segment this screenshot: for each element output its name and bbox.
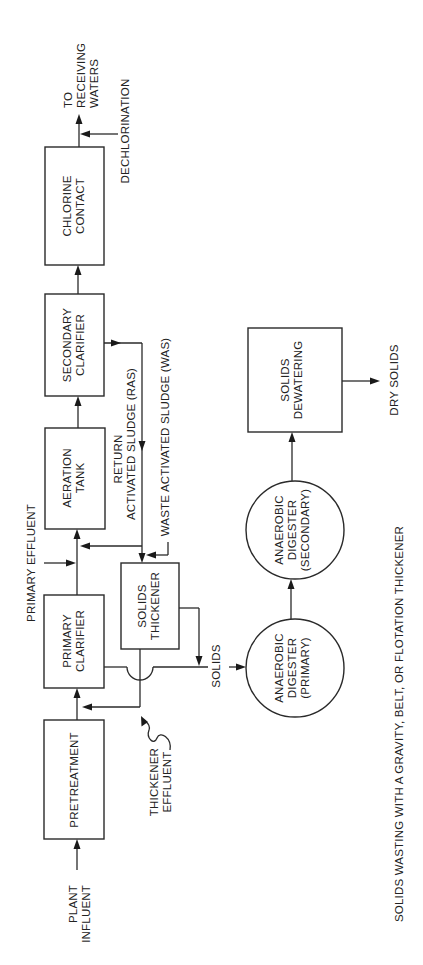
chlorine-contact-label-1: CHLORINE [61,175,73,236]
primary-sludge-line [104,667,208,680]
secondary-clarifier-label-2: CLARIFIER [74,314,86,376]
arrow-head-icon [236,664,246,671]
arrow-head-icon [146,552,156,559]
arrow-head-icon [196,656,203,666]
ras-label-2: ACTIVATED SLUDGE (RAS) [125,368,137,520]
secondary-clarifier-label-1: SECONDARY [61,308,73,383]
process-flow-diagram: PLANT INFLUENT PRETREATMENT PRIMARY CLAR… [0,0,423,965]
solids-dewatering-label-1: SOLIDS [279,358,291,402]
solids-thickener-label-1: SOLIDS [136,584,148,628]
solids-dewatering-label-2: DEWATERING [292,341,304,420]
dry-solids-label: DRY SOLIDS [388,344,400,415]
aeration-tank-label-2: TANK [74,463,86,494]
outflow-label-3: WATERS [88,59,100,108]
arrow-head-icon [370,378,380,385]
was-label: WASTE ACTIVATED SLUDGE (WAS) [159,338,171,537]
solids-thickener-label-2: THICKENER [149,572,161,640]
outflow-label-1: TO [62,92,74,108]
arrow-head-icon [80,543,90,550]
primary-clarifier-unit: PRIMARY CLARIFIER [44,595,104,688]
arrow-head-icon [74,688,81,698]
plant-influent: PLANT INFLUENT [67,839,92,943]
aeration-tank-label-1: AERATION [61,448,73,508]
arrow-head-icon [80,131,90,138]
was-stream: WASTE ACTIVATED SLUDGE (WAS) [146,338,171,559]
arrow-head-icon [76,114,83,124]
digester-secondary-label-2: DIGESTER [286,500,298,560]
solids-stream: SOLIDS [210,644,246,688]
thickener-effluent-label-1: THICKENER [148,748,160,816]
aeration-tank-unit: AERATION TANK [45,428,105,529]
arrow-head-icon [111,340,121,347]
pretreatment-unit: PRETREATMENT [44,720,104,839]
arrow-head-icon [75,265,82,275]
arrow-head-icon [75,396,82,406]
arrow-head-icon [139,553,146,563]
arrow-head-icon [288,579,295,589]
anaerobic-digester-primary-unit: ANAEROBIC DIGESTER (PRIMARY) [246,619,344,717]
primary-clarifier-label-2: CLARIFIER [74,610,86,672]
plant-influent-label-2: INFLUENT [80,885,92,943]
primary-effluent-label: PRIMARY EFFLUENT [25,504,37,622]
footnote: SOLIDS WASTING WITH A GRAVITY, BELT, OR … [393,526,405,922]
primary-clarifier-label-1: PRIMARY [61,614,73,668]
pretreatment-label: PRETREATMENT [68,732,80,827]
solids-thickener-unit: SOLIDS THICKENER [121,563,179,649]
arrow-head-icon [66,560,76,567]
digester-primary-label-3: (PRIMARY) [299,637,311,699]
dechlorination-label: DECHLORINATION [119,79,131,184]
chlorine-contact-unit: CHLORINE CONTACT [45,147,104,265]
outflow-stream: TO RECEIVING WATERS [62,43,100,147]
solids-dewatering-unit: SOLIDS DEWATERING [248,328,342,432]
anaerobic-digester-secondary-unit: ANAEROBIC DIGESTER (SECONDARY) [246,481,344,579]
digester-primary-label-2: DIGESTER [286,638,298,698]
digester-primary-label-1: ANAEROBIC [273,633,285,703]
thickener-effluent-label-2: EFFLUENT [161,751,173,812]
outflow-label-2: RECEIVING [75,43,87,108]
arrow-head-icon [74,529,81,539]
plant-influent-label-1: PLANT [67,885,79,923]
arrow-head-icon [289,432,296,442]
digester-secondary-label-3: (SECONDARY) [299,489,311,572]
arrow-head-icon [139,441,146,451]
chlorine-contact-label-2: CONTACT [74,178,86,234]
dry-solids-stream: DRY SOLIDS [342,344,400,415]
ras-label-1: RETURN [112,434,124,483]
solids-label: SOLIDS [210,644,222,688]
arrow-head-icon [82,704,92,711]
secondary-clarifier-unit: SECONDARY CLARIFIER [45,294,104,396]
arrow-head-icon [74,839,81,849]
arrow-head-icon [141,716,148,727]
digester-secondary-label-1: ANAEROBIC [273,495,285,565]
